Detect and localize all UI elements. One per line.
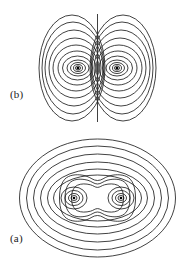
panel-b-right-focus-marker [116,67,119,70]
panel-a-label: (a) [10,232,23,244]
panel-a-right-focus-rings [108,187,134,209]
panel-a-outer-ellipses [20,139,176,257]
panel-a-left-focus-marker [73,197,76,200]
panel-a-right-focus-marker [120,197,123,200]
panel-b-left-focus-marker [77,67,80,70]
figure-root: (b) (a) [0,0,189,267]
panel-a-plot [20,139,176,257]
panel-b-label: (b) [10,88,23,100]
contour-figure-canvas [0,0,189,267]
panel-a-left-focus-rings [61,187,87,209]
panel-b-left-lobe [39,15,105,121]
panel-b-right-lobe [90,15,156,121]
panel-b-plot [39,14,156,122]
